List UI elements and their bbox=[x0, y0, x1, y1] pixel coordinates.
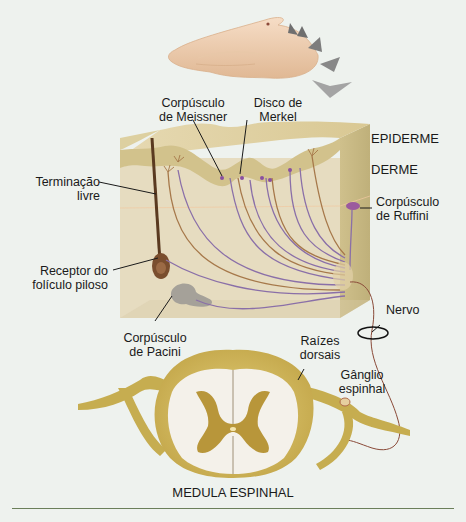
label-epiderme: EPIDERME bbox=[371, 132, 439, 146]
label-receptor-foliculo: Receptor do folículo piloso bbox=[8, 264, 108, 292]
ruffini-corpuscle bbox=[346, 202, 360, 210]
label-nervo: Nervo bbox=[386, 303, 419, 317]
label-raizes-dorsais: Raízes dorsais bbox=[290, 334, 350, 362]
label-medula-espinhal: MEDULA ESPINHAL bbox=[133, 486, 333, 500]
label-terminacao-livre: Terminação livre bbox=[20, 175, 100, 203]
label-meissner: Corpúsculo de Meissner bbox=[150, 96, 236, 124]
label-pacini: Corpúsculo de Pacini bbox=[110, 331, 200, 359]
label-ruffini: Corpúsculo de Ruffini bbox=[376, 195, 439, 223]
diagram-canvas bbox=[0, 0, 466, 522]
label-ganglio-espinhal: Gânglio espinhal bbox=[330, 368, 394, 396]
nerve-ring bbox=[358, 327, 388, 339]
caption-divider bbox=[12, 508, 454, 509]
skin-cross-section bbox=[120, 122, 370, 319]
hand-illustration bbox=[168, 18, 318, 79]
central-canal bbox=[230, 427, 236, 431]
label-merkel: Disco de Merkel bbox=[245, 96, 311, 124]
label-derme: DERME bbox=[371, 163, 418, 177]
